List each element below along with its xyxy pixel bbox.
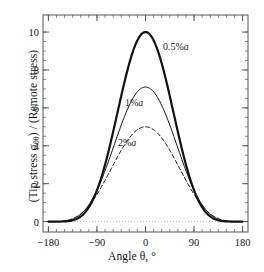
x-major-ticks bbox=[48, 15, 242, 232]
x-minor-ticks bbox=[48, 15, 242, 232]
x-tick-label: 180 bbox=[235, 237, 251, 248]
curve-annotation-05a: 0.5%a bbox=[163, 41, 189, 52]
y-axis-title: (Tip stress σθθ) / (Remote stress) bbox=[27, 6, 41, 246]
x-axis-title: Angle θ, ° bbox=[0, 250, 264, 262]
x-tick-label: −180 bbox=[38, 237, 60, 248]
x-tick-label: 0 bbox=[143, 237, 148, 248]
x-tick-label: −90 bbox=[89, 237, 105, 248]
y-tick-label: 10 bbox=[19, 27, 39, 38]
y-tick-label: 8 bbox=[19, 64, 39, 75]
curve-annotation-2a: 2%a bbox=[118, 137, 136, 148]
stress-angle-chart: (Tip stress σθθ) / (Remote stress) Angle… bbox=[0, 0, 264, 272]
y-tick-label: 2 bbox=[19, 178, 39, 189]
curve-annotation-1a: 1%a bbox=[125, 97, 143, 108]
data-curve bbox=[48, 127, 242, 222]
y-tick-label: 0 bbox=[19, 216, 39, 227]
x-tick-label: 90 bbox=[189, 237, 200, 248]
plot-frame bbox=[43, 15, 248, 232]
data-curve bbox=[48, 87, 242, 222]
y-tick-label: 4 bbox=[19, 140, 39, 151]
y-tick-label: 6 bbox=[19, 102, 39, 113]
